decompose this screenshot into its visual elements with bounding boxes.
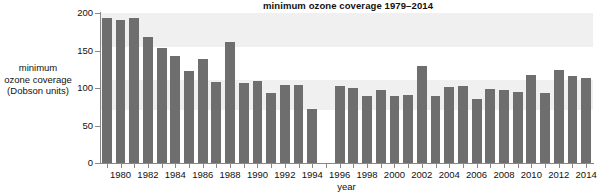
x-tick-2009 bbox=[518, 164, 519, 168]
x-tick-1991 bbox=[271, 164, 272, 168]
x-tick-1984 bbox=[175, 164, 176, 168]
bar-1984 bbox=[170, 56, 180, 163]
x-tick-1994 bbox=[312, 164, 313, 168]
bar-1985 bbox=[184, 71, 194, 163]
x-tick-1980 bbox=[121, 164, 122, 168]
bar-1986 bbox=[198, 59, 208, 163]
bar-1987 bbox=[211, 82, 221, 163]
bar-2000 bbox=[390, 96, 400, 163]
bar-1999 bbox=[376, 90, 386, 164]
bar-1994 bbox=[307, 109, 317, 163]
y-tick-0 bbox=[95, 163, 100, 164]
bar-2005 bbox=[458, 86, 468, 163]
bar-2012 bbox=[554, 70, 564, 163]
bar-2010 bbox=[526, 75, 536, 163]
x-tick-2004 bbox=[449, 164, 450, 168]
bar-1980 bbox=[116, 20, 126, 163]
bar-1990 bbox=[253, 81, 263, 164]
x-tick-1990 bbox=[257, 164, 258, 168]
x-tick-1996 bbox=[340, 164, 341, 168]
x-tick-2006 bbox=[477, 164, 478, 168]
x-tick-2001 bbox=[408, 164, 409, 168]
x-tick-1982 bbox=[148, 164, 149, 168]
bar-1981 bbox=[129, 18, 139, 164]
bar-2006 bbox=[472, 99, 482, 164]
bar-2009 bbox=[513, 92, 523, 163]
bar-2014 bbox=[581, 78, 591, 163]
bar-1979 bbox=[102, 18, 112, 164]
plot-area bbox=[100, 13, 593, 163]
bar-1993 bbox=[294, 85, 304, 163]
x-tick-2014 bbox=[586, 164, 587, 168]
bar-1988 bbox=[225, 42, 235, 163]
bar-1989 bbox=[239, 83, 249, 163]
x-tick-2000 bbox=[394, 164, 395, 168]
x-tick-2011 bbox=[545, 164, 546, 168]
x-tick-1995 bbox=[326, 164, 327, 168]
x-tick-1979 bbox=[107, 164, 108, 168]
bar-1998 bbox=[362, 96, 372, 164]
x-axis-label: year bbox=[100, 181, 593, 192]
bar-2013 bbox=[568, 76, 578, 163]
bar-1982 bbox=[143, 37, 153, 163]
x-tick-2005 bbox=[463, 164, 464, 168]
bar-2003 bbox=[431, 96, 441, 164]
bar-2001 bbox=[403, 95, 413, 163]
bar-2007 bbox=[485, 89, 495, 163]
x-tick-2002 bbox=[422, 164, 423, 168]
x-tick-2007 bbox=[490, 164, 491, 168]
x-tick-2008 bbox=[504, 164, 505, 168]
bar-2004 bbox=[444, 87, 454, 164]
x-tick-1983 bbox=[162, 164, 163, 168]
bar-1991 bbox=[266, 93, 276, 164]
x-tick-2012 bbox=[559, 164, 560, 168]
x-tick-1985 bbox=[189, 164, 190, 168]
x-tick-1992 bbox=[285, 164, 286, 168]
x-tick-1999 bbox=[381, 164, 382, 168]
x-tick-label-2014: 2014 bbox=[569, 169, 601, 180]
bars-layer bbox=[100, 13, 593, 163]
x-tick-1988 bbox=[230, 164, 231, 168]
bar-2011 bbox=[540, 93, 550, 163]
x-tick-2003 bbox=[436, 164, 437, 168]
bar-1992 bbox=[280, 85, 290, 163]
x-tick-2010 bbox=[531, 164, 532, 168]
bar-1983 bbox=[157, 48, 167, 163]
bar-1996 bbox=[335, 86, 345, 163]
x-tick-1998 bbox=[367, 164, 368, 168]
x-tick-1997 bbox=[353, 164, 354, 168]
bar-2008 bbox=[499, 90, 509, 164]
x-tick-1989 bbox=[244, 164, 245, 168]
x-tick-1981 bbox=[134, 164, 135, 168]
bar-1997 bbox=[348, 88, 358, 163]
x-tick-1986 bbox=[203, 164, 204, 168]
x-tick-1993 bbox=[299, 164, 300, 168]
bar-2002 bbox=[417, 66, 427, 164]
x-tick-1987 bbox=[216, 164, 217, 168]
x-tick-2013 bbox=[572, 164, 573, 168]
